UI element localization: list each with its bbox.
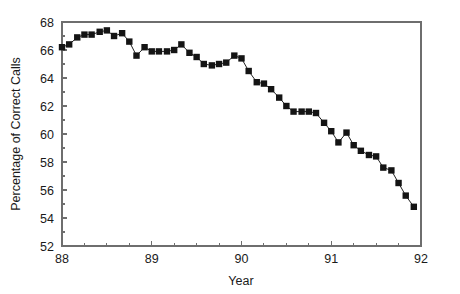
- y-tick-label: 52: [40, 240, 54, 254]
- y-tick-label: 64: [40, 72, 54, 86]
- data-point-marker: [358, 148, 364, 154]
- data-point-marker: [126, 38, 132, 44]
- y-tick-label: 56: [40, 184, 54, 198]
- data-point-marker: [388, 167, 394, 173]
- data-point-marker: [343, 129, 349, 135]
- data-point-marker: [373, 153, 379, 159]
- x-tick-label: 91: [324, 252, 338, 266]
- data-point-marker: [321, 120, 327, 126]
- data-point-marker: [104, 27, 110, 33]
- x-tick-label: 92: [414, 252, 428, 266]
- data-point-marker: [178, 41, 184, 47]
- data-point-marker: [156, 48, 162, 54]
- data-point-marker: [223, 59, 229, 65]
- x-axis-title: Year: [228, 274, 253, 288]
- data-point-marker: [366, 152, 372, 158]
- data-point-marker: [164, 48, 170, 54]
- data-point-marker: [395, 180, 401, 186]
- data-point-marker: [403, 192, 409, 198]
- y-tick-label: 58: [40, 156, 54, 170]
- data-point-marker: [283, 103, 289, 109]
- data-point-marker: [268, 86, 274, 92]
- y-axis-tick-labels: 525456586062646668: [40, 16, 54, 254]
- data-point-marker: [119, 30, 125, 36]
- x-tick-label: 88: [55, 252, 69, 266]
- data-point-marker: [350, 142, 356, 148]
- line-chart: 525456586062646668 8889909192 Percentage…: [0, 0, 460, 294]
- data-point-marker: [81, 31, 87, 37]
- data-point-marker: [186, 50, 192, 56]
- data-point-marker: [411, 204, 417, 210]
- data-point-marker: [335, 139, 341, 145]
- data-point-marker: [59, 44, 65, 50]
- data-point-marker: [313, 110, 319, 116]
- y-axis-title: Percentage of Correct Calls: [9, 57, 23, 211]
- data-point-marker: [201, 61, 207, 67]
- data-point-marker: [216, 61, 222, 67]
- data-point-marker: [74, 34, 80, 40]
- data-point-marker: [97, 29, 103, 35]
- chart-container: 525456586062646668 8889909192 Percentage…: [0, 0, 460, 294]
- y-tick-label: 66: [40, 44, 54, 58]
- x-tick-label: 89: [145, 252, 159, 266]
- data-point-marker: [276, 94, 282, 100]
- data-point-marker: [380, 164, 386, 170]
- data-point-marker: [298, 108, 304, 114]
- data-point-marker: [133, 52, 139, 58]
- data-point-marker: [238, 55, 244, 61]
- y-tick-label: 62: [40, 100, 54, 114]
- data-point-marker: [290, 108, 296, 114]
- data-point-marker: [149, 48, 155, 54]
- data-point-marker: [245, 68, 251, 74]
- data-point-marker: [193, 54, 199, 60]
- data-point-marker: [66, 41, 72, 47]
- data-point-marker: [254, 79, 260, 85]
- data-point-marker: [261, 80, 267, 86]
- y-tick-label: 54: [40, 212, 54, 226]
- data-point-marker: [111, 33, 117, 39]
- x-tick-label: 90: [235, 252, 249, 266]
- data-point-marker: [171, 47, 177, 53]
- data-point-marker: [88, 31, 94, 37]
- y-tick-label: 68: [40, 16, 54, 30]
- data-point-marker: [328, 128, 334, 134]
- data-point-marker: [306, 108, 312, 114]
- data-point-marker: [209, 62, 215, 68]
- data-point-marker: [141, 44, 147, 50]
- data-point-marker: [231, 52, 237, 58]
- y-tick-label: 60: [40, 128, 54, 142]
